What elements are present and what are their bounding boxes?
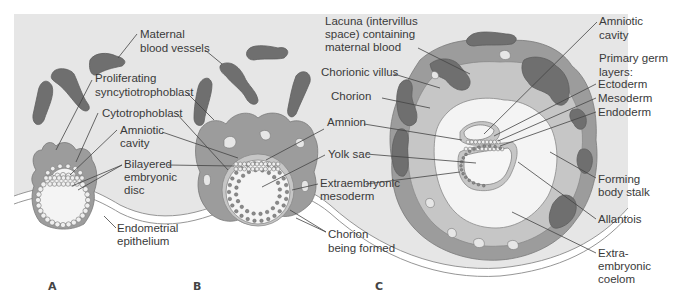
mesoderm-cell bbox=[284, 183, 288, 187]
disc-cell bbox=[247, 167, 251, 171]
endoderm-cell bbox=[464, 147, 468, 151]
disc-cell bbox=[259, 162, 263, 166]
hypoblast-cell bbox=[66, 182, 71, 187]
disc-cell bbox=[247, 162, 251, 166]
yolk-sac-wall-cell bbox=[488, 145, 491, 148]
trophoblast-cell bbox=[83, 208, 88, 213]
mesoderm-cell bbox=[236, 199, 240, 203]
maternal-vessel bbox=[467, 32, 517, 46]
trophoblast-cell bbox=[50, 220, 55, 225]
label-amnion: Amnion bbox=[327, 116, 366, 128]
disc-cell bbox=[259, 167, 263, 171]
disc-cell bbox=[251, 162, 255, 166]
disc-cell bbox=[268, 162, 272, 166]
cytotrophoblast-cell bbox=[44, 176, 49, 181]
mesoderm-cell bbox=[266, 217, 270, 221]
label-chorion: Chorion bbox=[331, 90, 371, 102]
trophoblast-cell bbox=[76, 217, 81, 222]
hypoblast-cell bbox=[61, 182, 66, 187]
yolk-sac-wall-cell bbox=[468, 179, 471, 182]
hypoblast-cell bbox=[48, 182, 53, 187]
trophoblast-cell bbox=[41, 213, 46, 218]
panel-letter-a: A bbox=[48, 280, 57, 293]
trophoblast-cell bbox=[45, 217, 50, 222]
trophoblast-cell bbox=[71, 220, 76, 225]
epiblast-cell bbox=[52, 176, 57, 181]
disc-cell bbox=[263, 162, 267, 166]
yolk-sac-wall-cell bbox=[478, 146, 481, 149]
leader-chorion-formed bbox=[290, 210, 326, 232]
mesoderm-cell bbox=[278, 209, 282, 213]
trophoblast-cell bbox=[80, 213, 85, 218]
mesoderm-cell bbox=[282, 177, 286, 181]
label-endoderm: Endoderm bbox=[598, 106, 651, 118]
cytotrophoblast-cell bbox=[50, 166, 55, 171]
yolk-sac-wall-cell bbox=[482, 184, 485, 187]
epiblast-cell bbox=[66, 176, 71, 181]
yolk-sac-wall-cell bbox=[468, 150, 471, 153]
label-extraembryonic-coelom: Extra- embryonic coelom bbox=[598, 247, 654, 285]
disc-cell bbox=[272, 162, 276, 166]
mesoderm-cell bbox=[241, 174, 245, 178]
yolk-sac-wall-cell bbox=[462, 172, 465, 175]
ectoderm-cell bbox=[474, 140, 478, 144]
ectoderm-cell bbox=[470, 140, 474, 144]
cytotrophoblast-cell bbox=[66, 164, 71, 169]
mesoderm-cell bbox=[276, 181, 280, 185]
hypoblast-cell bbox=[57, 182, 62, 187]
lacuna bbox=[224, 136, 236, 148]
yolk-sac-wall-cell bbox=[460, 168, 463, 171]
mesoderm-cell bbox=[278, 188, 282, 192]
panel-letter-b: B bbox=[193, 280, 201, 293]
label-mesoderm: Mesoderm bbox=[598, 92, 652, 104]
ectoderm-cell bbox=[485, 140, 489, 144]
mesoderm-cell bbox=[278, 195, 282, 199]
trophoblast-cell bbox=[85, 192, 90, 197]
lacuna bbox=[500, 50, 511, 59]
trophoblast-cell bbox=[60, 222, 65, 227]
disc-cell bbox=[238, 162, 242, 166]
lacuna bbox=[203, 174, 210, 185]
mesoderm-cell bbox=[237, 179, 241, 183]
mesoderm-cell bbox=[234, 209, 238, 213]
mesoderm-cell bbox=[231, 177, 235, 181]
cytotrophoblast-cell bbox=[45, 170, 50, 175]
mesoderm-cell bbox=[234, 171, 238, 175]
trophoblast-cell bbox=[41, 182, 46, 187]
trophoblast-cell bbox=[38, 187, 43, 192]
mesoderm-cell bbox=[227, 190, 231, 194]
mesoderm-cell bbox=[246, 217, 250, 221]
disc-cell bbox=[255, 167, 259, 171]
epiblast-cell bbox=[61, 176, 66, 181]
label-forming-body-stalk: Forming body stalk bbox=[598, 173, 650, 198]
disc-cell bbox=[276, 167, 280, 171]
disc-cell bbox=[251, 167, 255, 171]
mesoderm-cell bbox=[260, 219, 264, 223]
label-allantois: Allantois bbox=[598, 213, 642, 225]
yolk-sac-wall-cell bbox=[465, 153, 468, 156]
mesoderm-cell bbox=[259, 212, 263, 216]
yolk-sac-wall-cell bbox=[483, 145, 486, 148]
mesoderm-cell bbox=[240, 214, 244, 218]
yolk-sac-wall-cell bbox=[462, 157, 465, 160]
trophoblast-cell bbox=[35, 197, 40, 202]
yolk-sac-wall-cell bbox=[460, 164, 463, 167]
mesoderm-cell bbox=[240, 205, 244, 209]
yolk-sac-wall-cell bbox=[473, 147, 476, 150]
lacuna bbox=[448, 228, 457, 237]
mesoderm-cell bbox=[228, 183, 232, 187]
leader-endometrial bbox=[104, 216, 116, 228]
yolk-sac-wall-cell bbox=[499, 147, 502, 150]
cytotrophoblast-cell bbox=[78, 170, 83, 175]
disc-cell bbox=[276, 162, 280, 166]
trophoblast-cell bbox=[66, 222, 71, 227]
panel-letter-c: C bbox=[375, 280, 383, 293]
lacuna bbox=[301, 180, 308, 191]
ectoderm-cell bbox=[466, 140, 470, 144]
disc-cell bbox=[234, 162, 238, 166]
yolk-sac-wall-cell bbox=[494, 145, 497, 148]
cytotrophoblast-cell bbox=[58, 164, 63, 169]
mesoderm-cell bbox=[285, 190, 289, 194]
ectoderm-cell bbox=[489, 140, 493, 144]
disc-cell bbox=[255, 162, 259, 166]
